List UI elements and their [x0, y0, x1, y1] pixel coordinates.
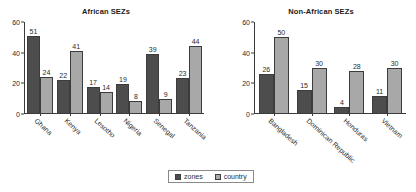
bar-zones[interactable]: 4 [334, 22, 349, 113]
bar-rect [259, 74, 274, 113]
category-label: Kenya [63, 117, 82, 135]
bar-value-label: 30 [315, 60, 323, 67]
y-tick-mark [21, 114, 24, 115]
category-label: Ghana [33, 117, 53, 136]
category-label-cell: Nigeria [114, 116, 144, 160]
category-label-cell: Kenya [55, 116, 85, 160]
legend-label: country [224, 173, 247, 180]
chart-panel-nonafrican: Non-African SEZs 0204060265015304281130 … [228, 0, 414, 160]
bar-zones[interactable]: 22 [57, 22, 70, 113]
y-tick-label: 60 [242, 19, 250, 26]
bar-country[interactable]: 9 [159, 22, 172, 113]
bar-value-label: 8 [134, 93, 138, 100]
bar-rect [87, 87, 100, 113]
y-tick-label: 60 [12, 19, 20, 26]
bar-country[interactable]: 24 [40, 22, 53, 113]
bar-rect [297, 90, 312, 113]
category-label: Lesotho [93, 117, 116, 139]
bar-zones[interactable]: 19 [116, 22, 129, 113]
bar-groups-nonafrican: 265015304281130 [255, 22, 406, 113]
bar-country[interactable]: 14 [100, 22, 113, 113]
category-label: Nigeria [123, 117, 144, 137]
category-label-cell: Dominican Republic [293, 116, 331, 160]
y-tick-label: 40 [242, 49, 250, 56]
bar-zones[interactable]: 26 [259, 22, 274, 113]
bar-zones[interactable]: 17 [87, 22, 100, 113]
bar-group: 1530 [293, 22, 331, 113]
bar-groups-african: 5124224117141983992344 [25, 22, 204, 113]
panel-title-nonafrican: Non-African SEZs [228, 7, 414, 16]
y-tick-label: 0 [16, 111, 20, 118]
bar-group: 198 [114, 22, 144, 113]
category-label: Vietnam [380, 117, 404, 139]
bar-country[interactable]: 44 [189, 22, 202, 113]
bar-rect [129, 101, 142, 113]
bar-value-label: 51 [30, 28, 38, 35]
bar-value-label: 17 [89, 79, 97, 86]
bar-group: 5124 [25, 22, 55, 113]
x-axis-line-african [24, 113, 204, 114]
bar-value-label: 30 [391, 60, 399, 67]
dark-square-swatch [175, 174, 181, 180]
y-tick-label: 20 [12, 80, 20, 87]
plot-area-african: 02040605124224117141983992344 [24, 22, 204, 114]
bar-country[interactable]: 8 [129, 22, 142, 113]
category-label-cell: Bangladesh [255, 116, 293, 160]
bar-group: 2650 [255, 22, 293, 113]
bar-rect [372, 96, 387, 113]
bar-value-label: 19 [119, 76, 127, 83]
bar-value-label: 9 [164, 91, 168, 98]
bar-rect [40, 77, 53, 113]
bar-country[interactable]: 30 [312, 22, 327, 113]
bar-group: 1130 [368, 22, 406, 113]
bar-rect [70, 51, 83, 113]
y-tick-mark [21, 52, 24, 53]
bar-rect [27, 36, 40, 113]
dual-bar-chart-figure: African SEZs 020406051242241171419839923… [0, 0, 416, 192]
category-label-cell: Lesotho [85, 116, 115, 160]
chart-panel-african: African SEZs 020406051242241171419839923… [2, 0, 210, 160]
y-tick-mark [251, 83, 254, 84]
bar-country[interactable]: 41 [70, 22, 83, 113]
y-tick-mark [251, 114, 254, 115]
bar-rect [176, 78, 189, 113]
chart-legend: zonescountry [168, 170, 254, 183]
legend-item-country[interactable]: country [215, 173, 247, 180]
bar-rect [189, 46, 202, 113]
bar-value-label: 50 [277, 29, 285, 36]
bar-rect [387, 68, 402, 114]
light-square-swatch [215, 174, 221, 180]
bar-value-label: 39 [149, 46, 157, 53]
bar-value-label: 11 [376, 88, 383, 95]
bar-rect [274, 37, 289, 113]
bar-rect [334, 107, 349, 113]
bar-value-label: 22 [59, 72, 67, 79]
bar-country[interactable]: 28 [349, 22, 364, 113]
y-tick-label: 40 [12, 49, 20, 56]
panel-title-african: African SEZs [2, 7, 210, 16]
bar-zones[interactable]: 15 [297, 22, 312, 113]
y-tick-label: 20 [242, 80, 250, 87]
bar-group: 2241 [55, 22, 85, 113]
y-tick-mark [21, 22, 24, 23]
bar-rect [100, 92, 113, 113]
y-tick-mark [251, 52, 254, 53]
bar-rect [159, 99, 172, 113]
bar-country[interactable]: 50 [274, 22, 289, 113]
category-labels-african: GhanaKenyaLesothoNigeriaSenegalTanzania [25, 116, 204, 160]
plot-area-nonafrican: 0204060265015304281130 [254, 22, 406, 114]
bar-value-label: 28 [353, 63, 361, 70]
bar-zones[interactable]: 51 [27, 22, 40, 113]
category-label: Honduras [343, 117, 370, 143]
bar-country[interactable]: 30 [387, 22, 402, 113]
legend-item-zones[interactable]: zones [175, 173, 203, 180]
x-axis-line-nonafrican [254, 113, 406, 114]
bar-rect [57, 80, 70, 113]
bar-zones[interactable]: 23 [176, 22, 189, 113]
bar-zones[interactable]: 39 [146, 22, 159, 113]
bar-value-label: 23 [179, 70, 187, 77]
category-label: Senegal [153, 117, 177, 139]
legend-label: zones [184, 173, 203, 180]
bar-value-label: 44 [192, 38, 200, 45]
bar-zones[interactable]: 11 [372, 22, 387, 113]
